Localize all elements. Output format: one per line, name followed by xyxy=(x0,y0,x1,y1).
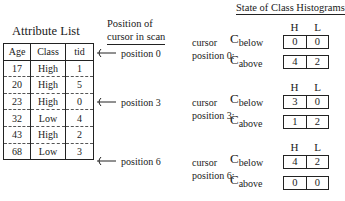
c-above-l: 2 xyxy=(306,116,329,128)
cell-age: 20 xyxy=(4,77,31,94)
c-above-row: 1 2 xyxy=(283,115,329,129)
cursor-label-line1: cursor xyxy=(192,36,235,49)
c-letter: C xyxy=(230,31,239,46)
c-letter: C xyxy=(230,151,239,166)
cursor-label-line2: position 0: xyxy=(192,49,235,62)
histogram-column-headers: H L xyxy=(283,141,329,153)
c-below-l: 0 xyxy=(306,36,329,48)
cursor-marker-label: position 6 xyxy=(121,156,161,167)
cell-class: High xyxy=(31,60,66,77)
header-h: H xyxy=(283,81,306,93)
cell-age: 32 xyxy=(4,110,31,127)
histogram-state-position-3: H L cursor position 3: Cbelow 3 0 Cabove… xyxy=(188,81,333,141)
cell-age: 17 xyxy=(4,60,31,77)
cell-class: High xyxy=(31,77,66,94)
header-h: H xyxy=(283,141,306,153)
c-letter: C xyxy=(230,172,239,187)
table-header-row: Age Class tid xyxy=(4,44,94,61)
header-l: L xyxy=(306,141,329,153)
cell-tid: 5 xyxy=(66,77,94,94)
c-above-row: 0 0 xyxy=(283,176,329,190)
c-below-row: 3 0 xyxy=(283,95,329,109)
left-arrow-icon xyxy=(95,96,117,108)
c-below-label: Cbelow xyxy=(230,151,263,168)
c-subscript: below xyxy=(239,97,263,108)
cursor-label-line2: position 6: xyxy=(192,169,235,182)
cell-tid: 0 xyxy=(66,93,94,110)
cursor-marker-position-6: position 6 xyxy=(95,155,161,167)
cell-class: High xyxy=(31,93,66,110)
c-subscript: below xyxy=(239,157,263,168)
c-letter: C xyxy=(230,52,239,67)
histogram-state-position-0: H L cursor position 0: Cbelow 0 0 Cabove… xyxy=(188,21,333,81)
table-row: 68 Low 3 xyxy=(4,143,94,160)
c-below-l: 0 xyxy=(306,96,329,108)
c-below-l: 2 xyxy=(306,156,329,168)
cursor-marker-label: position 3 xyxy=(121,97,161,108)
cell-age: 68 xyxy=(4,143,31,160)
c-below-h: 4 xyxy=(284,156,306,168)
cell-tid: 3 xyxy=(66,143,94,160)
cell-class: Low xyxy=(31,143,66,160)
c-above-row: 4 2 xyxy=(283,55,329,69)
c-below-row: 4 2 xyxy=(283,155,329,169)
table-row: 23 High 0 xyxy=(4,93,94,110)
cursor-title-line1: Position of xyxy=(107,17,165,30)
c-subscript: above xyxy=(239,58,263,69)
cell-class: High xyxy=(31,126,66,143)
cell-age: 43 xyxy=(4,126,31,143)
c-subscript: below xyxy=(239,37,263,48)
cursor-position-label: cursor position 6: xyxy=(192,156,235,182)
cursor-title-line2: cursor in scan xyxy=(107,30,165,45)
cell-age: 23 xyxy=(4,93,31,110)
histogram-column-headers: H L xyxy=(283,81,329,93)
column-header-tid: tid xyxy=(66,44,94,61)
table-row: 17 High 1 xyxy=(4,60,94,77)
left-arrow-icon xyxy=(95,155,117,167)
left-arrow-icon xyxy=(95,47,117,59)
c-subscript: above xyxy=(239,178,263,189)
c-below-h: 3 xyxy=(284,96,306,108)
header-l: L xyxy=(306,81,329,93)
cursor-position-title: Position of cursor in scan xyxy=(107,17,165,45)
cell-tid: 4 xyxy=(66,110,94,127)
c-above-h: 0 xyxy=(284,177,306,189)
attribute-list-table: Age Class tid 17 High 1 20 High 5 23 Hig… xyxy=(3,43,94,160)
column-header-age: Age xyxy=(4,44,31,61)
cursor-position-label: cursor position 3: xyxy=(192,96,235,122)
c-above-l: 2 xyxy=(306,56,329,68)
table-row: 32 Low 4 xyxy=(4,110,94,127)
c-above-l: 0 xyxy=(306,177,329,189)
cell-tid: 2 xyxy=(66,126,94,143)
c-above-label: Cabove xyxy=(230,172,263,189)
header-h: H xyxy=(283,21,306,33)
c-above-label: Cabove xyxy=(230,112,263,129)
cursor-marker-position-3: position 3 xyxy=(95,96,161,108)
c-above-label: Cabove xyxy=(230,52,263,69)
cell-tid: 1 xyxy=(66,60,94,77)
cursor-position-label: cursor position 0: xyxy=(192,36,235,62)
c-letter: C xyxy=(230,112,239,127)
cursor-marker-label: position 0 xyxy=(121,48,161,59)
c-subscript: above xyxy=(239,118,263,129)
c-below-label: Cbelow xyxy=(230,91,263,108)
c-above-h: 1 xyxy=(284,116,306,128)
c-letter: C xyxy=(230,91,239,106)
histogram-state-position-6: H L cursor position 6: Cbelow 4 2 Cabove… xyxy=(188,141,333,201)
column-header-class: Class xyxy=(31,44,66,61)
c-below-label: Cbelow xyxy=(230,31,263,48)
table-row: 43 High 2 xyxy=(4,126,94,143)
c-above-h: 4 xyxy=(284,56,306,68)
histogram-column-headers: H L xyxy=(283,21,329,33)
cursor-label-line1: cursor xyxy=(192,96,235,109)
cursor-marker-position-0: position 0 xyxy=(95,47,161,59)
table-row: 20 High 5 xyxy=(4,77,94,94)
c-below-row: 0 0 xyxy=(283,35,329,49)
cursor-label-line2: position 3: xyxy=(192,109,235,122)
histograms-title: State of Class Histograms xyxy=(236,2,345,15)
header-l: L xyxy=(306,21,329,33)
c-below-h: 0 xyxy=(284,36,306,48)
cursor-label-line1: cursor xyxy=(192,156,235,169)
cell-class: Low xyxy=(31,110,66,127)
attribute-list-title: Attribute List xyxy=(12,24,80,39)
